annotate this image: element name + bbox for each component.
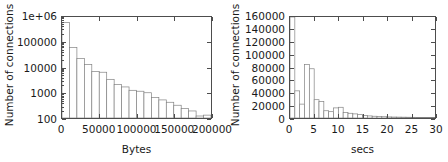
bar — [372, 116, 377, 118]
bar — [392, 117, 397, 118]
x-tick-mark — [137, 114, 138, 118]
y-minor-tick-mark — [62, 97, 64, 98]
bar — [84, 65, 91, 118]
y-minor-tick-mark — [62, 29, 64, 30]
y-tick-label: 1000 — [0, 88, 57, 99]
x-tick-label: 30 — [429, 124, 442, 135]
x-axis-label-bytes-chart: Bytes — [61, 143, 212, 155]
y-tick-label: 100000 — [224, 49, 285, 60]
bar — [343, 113, 348, 118]
bar — [181, 108, 188, 118]
bar — [99, 72, 106, 118]
x-tick-mark — [289, 114, 290, 118]
y-minor-tick-mark — [62, 24, 64, 25]
bar — [305, 64, 310, 118]
y-tick-mark-right — [207, 42, 211, 43]
bar — [421, 117, 426, 118]
y-tick-mark-right — [431, 119, 435, 120]
bar — [416, 117, 421, 118]
x-tick-label: 150000 — [154, 124, 194, 135]
y-minor-tick-mark — [62, 26, 64, 27]
x-tick-mark — [412, 114, 413, 118]
y-tick-mark — [290, 68, 294, 69]
bar — [159, 100, 166, 118]
y-tick-label: 80000 — [224, 62, 285, 73]
y-tick-mark — [290, 106, 294, 107]
bar — [69, 47, 76, 118]
y-tick-mark — [290, 29, 294, 30]
y-tick-mark-right — [207, 16, 211, 17]
bar — [396, 117, 401, 118]
x-tick-label: 5 — [310, 124, 317, 135]
y-minor-tick-mark — [62, 44, 64, 45]
y-tick-label: 60000 — [224, 75, 285, 86]
x-tick-mark — [363, 114, 364, 118]
chart-panel-secs: Number of connections 020000400006000080… — [224, 0, 448, 162]
bar — [430, 117, 435, 118]
y-minor-tick-mark — [62, 78, 64, 79]
y-minor-tick-mark — [62, 81, 64, 82]
plot-area-secs-chart — [289, 16, 436, 119]
y-tick-mark-right — [431, 106, 435, 107]
y-minor-tick-mark — [62, 99, 64, 100]
x-tick-mark-top — [99, 17, 100, 21]
bar — [295, 91, 300, 118]
x-tick-label: 0 — [286, 124, 293, 135]
x-tick-label: 25 — [405, 124, 418, 135]
y-minor-tick-mark — [62, 52, 64, 53]
y-tick-mark — [62, 119, 66, 120]
bar — [401, 117, 406, 118]
y-minor-tick-mark — [62, 20, 64, 21]
bar — [338, 107, 343, 118]
bar — [358, 115, 363, 118]
y-tick-label: 40000 — [224, 88, 285, 99]
y-minor-tick-mark — [62, 71, 64, 72]
y-minor-tick-mark — [62, 22, 64, 23]
y-tick-label: 120000 — [224, 36, 285, 47]
y-minor-tick-mark — [62, 111, 64, 112]
y-minor-tick-mark — [62, 107, 64, 108]
bar — [196, 116, 203, 118]
bar — [107, 79, 114, 118]
x-tick-mark — [212, 114, 213, 118]
x-tick-mark — [436, 114, 437, 118]
y-minor-tick-mark — [62, 34, 64, 35]
bar — [151, 98, 158, 118]
bar — [166, 102, 173, 118]
bar — [77, 58, 84, 118]
bar — [300, 104, 305, 118]
y-tick-mark — [290, 55, 294, 56]
y-tick-label: 10000 — [0, 62, 57, 73]
y-tick-label: 160000 — [224, 11, 285, 22]
y-tick-mark-right — [431, 16, 435, 17]
x-tick-mark — [387, 114, 388, 118]
x-tick-mark — [174, 114, 175, 118]
x-tick-label: 50000 — [82, 124, 115, 135]
y-tick-mark-right — [431, 29, 435, 30]
y-tick-mark — [290, 42, 294, 43]
y-minor-tick-mark — [62, 73, 64, 74]
y-minor-tick-mark — [62, 43, 64, 44]
x-tick-mark-top — [174, 17, 175, 21]
y-tick-mark-right — [431, 68, 435, 69]
y-tick-label: 100000 — [0, 36, 57, 47]
y-tick-mark-right — [207, 93, 211, 94]
y-tick-mark-right — [431, 42, 435, 43]
x-tick-mark-top — [387, 17, 388, 21]
x-tick-label: 0 — [58, 124, 65, 135]
bar — [425, 117, 430, 118]
x-tick-mark-top — [61, 17, 62, 21]
x-tick-mark-top — [412, 17, 413, 21]
x-tick-label: 15 — [356, 124, 369, 135]
chart-panel-bytes: Number of connections 100100010000100000… — [0, 0, 224, 162]
y-tick-label: 140000 — [224, 23, 285, 34]
bar — [367, 116, 372, 118]
y-minor-tick-mark — [62, 17, 64, 18]
x-tick-mark — [338, 114, 339, 118]
y-minor-tick-mark — [62, 75, 64, 76]
bar — [382, 117, 387, 118]
x-tick-mark-top — [137, 17, 138, 21]
y-minor-tick-mark — [62, 55, 64, 56]
y-tick-mark — [290, 80, 294, 81]
bar — [348, 113, 353, 118]
